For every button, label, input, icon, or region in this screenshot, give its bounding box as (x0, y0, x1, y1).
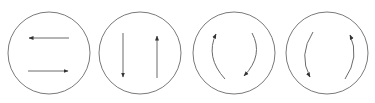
arrow-up-icon (212, 34, 225, 79)
panel-clockwise-arcs (193, 12, 275, 94)
arrow-up-icon (345, 35, 354, 79)
motion-arrows-diagram (0, 0, 375, 103)
arrow-down-icon (305, 32, 313, 77)
panel-counterclockwise-arcs (286, 12, 368, 94)
diagram-canvas (0, 0, 375, 103)
circle-outline (286, 12, 368, 94)
panel-horizontal-opposite (8, 12, 90, 94)
circle-outline (99, 12, 181, 94)
circle-outline (193, 12, 275, 94)
arrow-down-icon (244, 33, 257, 76)
circle-outline (8, 12, 90, 94)
panel-vertical-opposite (99, 12, 181, 94)
